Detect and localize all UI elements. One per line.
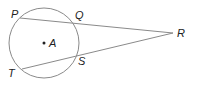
secant-tr xyxy=(22,33,173,69)
secant-pr xyxy=(20,18,173,33)
label-p: P xyxy=(11,9,18,20)
label-s: S xyxy=(78,56,85,67)
label-r: R xyxy=(177,28,185,39)
diagram-canvas xyxy=(0,0,198,85)
label-a: A xyxy=(49,38,56,49)
center-point-a xyxy=(43,42,46,45)
label-q: Q xyxy=(75,10,84,21)
label-t: T xyxy=(8,68,15,79)
